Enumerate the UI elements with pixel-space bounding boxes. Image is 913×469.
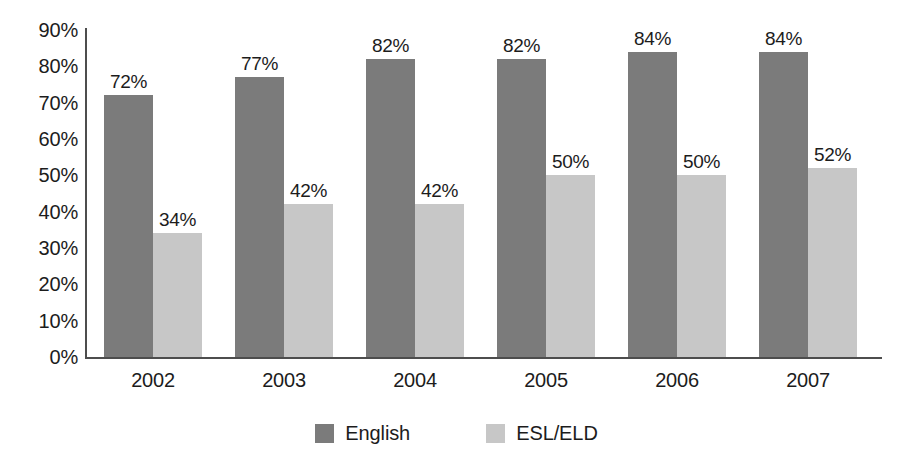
bar-group: 82%50%: [497, 30, 597, 357]
bar-value-label: 82%: [372, 35, 409, 56]
bar-fill: [628, 52, 677, 357]
bar-2006-esl-eld[interactable]: 50%: [677, 175, 726, 357]
bar-value-label: 50%: [552, 151, 589, 172]
bar-group: 82%42%: [366, 30, 466, 357]
legend-label: ESL/ELD: [516, 423, 598, 443]
bar-value-label: 77%: [241, 53, 278, 74]
bar-value-label: 34%: [159, 209, 196, 230]
bar-2006-english[interactable]: 84%: [628, 52, 677, 357]
bar-chart: 90%80%70%60%50%40%30%20%10%0% 72%34%77%4…: [0, 0, 913, 469]
bar-fill: [153, 233, 202, 357]
y-axis-tick-label: 30%: [8, 238, 78, 258]
bar-group: 84%52%: [759, 30, 859, 357]
legend-item-esl-eld[interactable]: ESL/ELD: [486, 423, 598, 443]
bar-fill: [284, 204, 333, 357]
x-axis-tick-label-2004: 2004: [360, 368, 470, 392]
bar-2002-english[interactable]: 72%: [104, 95, 153, 357]
bar-2005-esl-eld[interactable]: 50%: [546, 175, 595, 357]
bar-fill: [808, 168, 857, 357]
bar-2004-esl-eld[interactable]: 42%: [415, 204, 464, 357]
bar-2003-esl-eld[interactable]: 42%: [284, 204, 333, 357]
bar-2002-esl-eld[interactable]: 34%: [153, 233, 202, 357]
y-axis-tick-label: 60%: [8, 129, 78, 149]
y-axis-tick-label: 40%: [8, 202, 78, 222]
bar-fill: [415, 204, 464, 357]
bar-2004-english[interactable]: 82%: [366, 59, 415, 357]
y-axis-tick-label: 50%: [8, 165, 78, 185]
y-axis-tick-label: 80%: [8, 56, 78, 76]
bar-2007-esl-eld[interactable]: 52%: [808, 168, 857, 357]
legend-label: English: [345, 423, 410, 443]
x-axis-tick-label-2005: 2005: [491, 368, 601, 392]
y-axis-tick-label: 0%: [8, 347, 78, 367]
bar-fill: [759, 52, 808, 357]
x-axis-tick-label-2003: 2003: [229, 368, 339, 392]
bar-fill: [366, 59, 415, 357]
bar-value-label: 52%: [814, 144, 851, 165]
y-axis-labels: 90%80%70%60%50%40%30%20%10%0%: [0, 0, 78, 469]
bar-2003-english[interactable]: 77%: [235, 77, 284, 357]
bar-group: 77%42%: [235, 30, 335, 357]
y-axis-tick-label: 20%: [8, 274, 78, 294]
bar-2007-english[interactable]: 84%: [759, 52, 808, 357]
bar-group: 84%50%: [628, 30, 728, 357]
x-axis-tick-label-2006: 2006: [622, 368, 732, 392]
bar-2005-english[interactable]: 82%: [497, 59, 546, 357]
bar-fill: [104, 95, 153, 357]
x-axis-tick-label-2007: 2007: [753, 368, 863, 392]
legend-swatch-icon: [315, 424, 334, 443]
y-axis-tick-label: 90%: [8, 20, 78, 40]
bar-fill: [497, 59, 546, 357]
bar-value-label: 82%: [503, 35, 540, 56]
bar-value-label: 72%: [110, 71, 147, 92]
legend-item-english[interactable]: English: [315, 423, 410, 443]
y-axis-tick-label: 10%: [8, 311, 78, 331]
bar-group: 72%34%: [104, 30, 204, 357]
bar-value-label: 50%: [683, 151, 720, 172]
y-axis-tick-label: 70%: [8, 93, 78, 113]
bar-value-label: 42%: [421, 180, 458, 201]
legend-swatch-icon: [486, 424, 505, 443]
x-axis-line: [85, 357, 882, 359]
bar-fill: [235, 77, 284, 357]
bar-fill: [546, 175, 595, 357]
plot-area: 72%34%77%42%82%42%82%50%84%50%84%52%: [85, 30, 880, 357]
bar-value-label: 42%: [290, 180, 327, 201]
bar-value-label: 84%: [765, 28, 802, 49]
x-axis-tick-label-2002: 2002: [98, 368, 208, 392]
chart-legend: EnglishESL/ELD: [0, 418, 913, 448]
bar-fill: [677, 175, 726, 357]
bar-value-label: 84%: [634, 28, 671, 49]
